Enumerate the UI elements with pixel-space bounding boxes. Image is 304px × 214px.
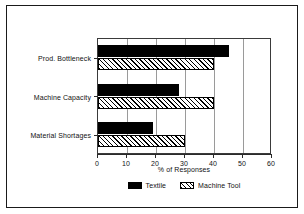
x-axis-title: % of Responses [97,166,271,173]
bar-textile [98,45,229,57]
y-axis-tick [94,135,98,136]
bar-group: Prod. Bottleneck [98,39,270,78]
bar-group: Machine Capacity [98,78,270,117]
legend-label: Machine Tool [198,182,240,189]
x-axis-tick [97,154,98,158]
plot-area: Prod. BottleneckMachine CapacityMaterial… [97,38,271,154]
bar-textile [98,84,179,96]
y-axis-tick [94,96,98,97]
x-axis-tick [242,154,243,158]
legend-label: Textile [146,182,167,189]
chart-legend: TextileMachine Tool [97,182,271,189]
y-axis-tick-label: Material Shortages [30,132,91,139]
x-axis-tick [184,154,185,158]
x-axis-tick [155,154,156,158]
bar-textile [98,122,153,134]
x-axis: 0102030405060 [97,154,271,155]
legend-swatch-machinetool [180,182,194,189]
x-axis-tick [271,154,272,158]
y-axis-tick-label: Prod. Bottleneck [38,55,91,62]
bar-machinetool [98,135,185,147]
bar-group: Material Shortages [98,116,270,155]
x-axis-tick [126,154,127,158]
bar-machinetool [98,97,214,109]
legend-item: Machine Tool [180,182,240,189]
x-axis-tick [213,154,214,158]
legend-item: Textile [128,182,167,189]
y-axis-tick [94,58,98,59]
legend-swatch-textile [128,182,142,189]
y-axis-tick-label: Machine Capacity [34,93,91,100]
bar-machinetool [98,58,214,70]
chart-figure: Prod. BottleneckMachine CapacityMaterial… [0,0,304,214]
